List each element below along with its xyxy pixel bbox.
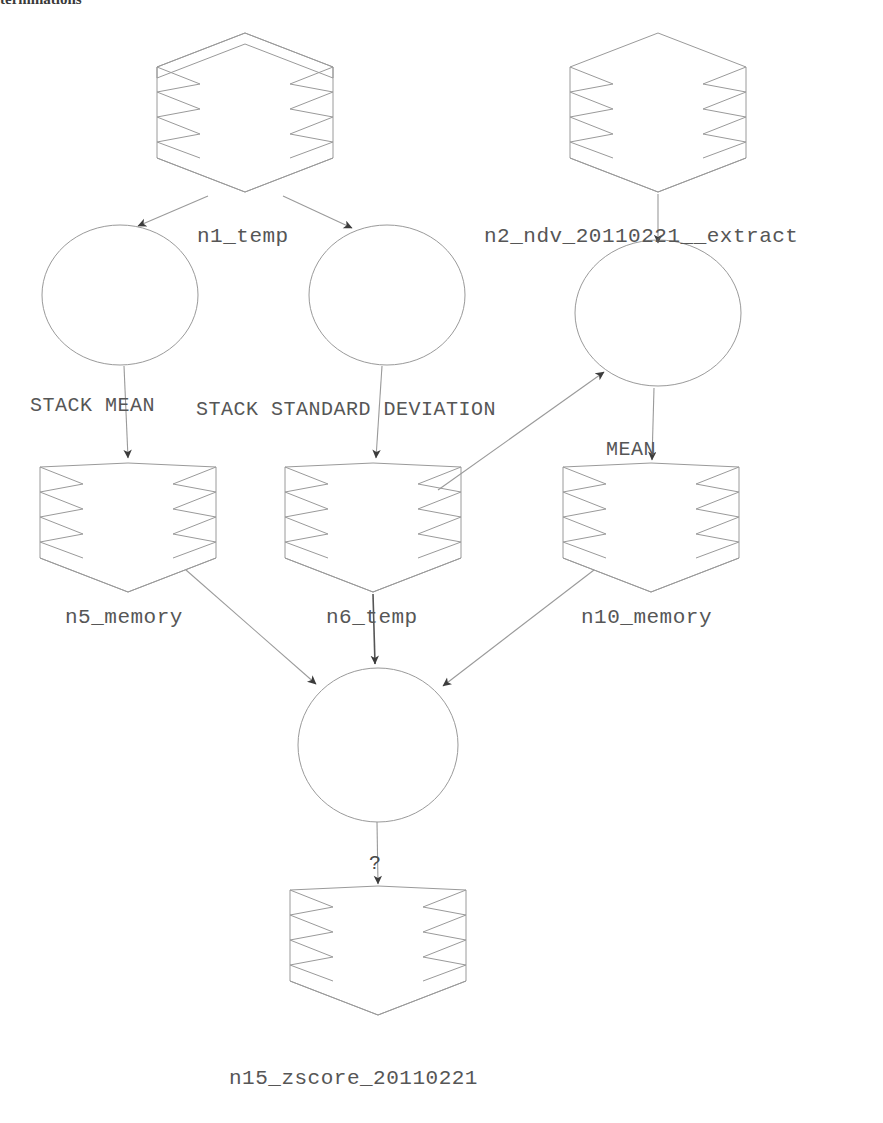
node-circle-c1[interactable]	[42, 225, 198, 365]
node-label-n15: n15_zscore_20110221	[229, 1068, 478, 1089]
edge-label-stack-standard-deviation: STACK STANDARD DEVIATION	[196, 400, 496, 420]
edge-n6-c3	[438, 372, 604, 490]
node-circle-c3[interactable]	[575, 240, 741, 386]
node-stack-n6[interactable]	[285, 463, 461, 592]
node-circle-c4[interactable]	[298, 668, 458, 822]
edge-label-stack-mean: STACK MEAN	[30, 396, 155, 416]
node-label-n1: n1_temp	[197, 226, 289, 247]
graph-svg	[0, 0, 883, 1123]
node-stack-n15[interactable]	[290, 886, 466, 1015]
edge-n1-c1	[138, 196, 208, 226]
edge-n10-c4	[443, 570, 594, 686]
node-circle-c2[interactable]	[309, 225, 465, 365]
node-stack-n2[interactable]	[570, 33, 746, 192]
edge-n5-c4	[186, 570, 316, 684]
diagram-canvas: terminations	[0, 0, 883, 1123]
node-stack-n10[interactable]	[563, 463, 739, 592]
edge-label-mean: MEAN	[606, 440, 656, 460]
node-label-n6: n6_temp	[326, 607, 418, 628]
edge-label-question-mark: ?	[369, 852, 381, 875]
node-stack-n1[interactable]	[157, 33, 333, 192]
edge-n6-c4	[373, 594, 375, 664]
edge-n1-c2	[283, 196, 352, 228]
node-label-n2: n2_ndv_20110221__extract	[484, 226, 798, 247]
node-label-n10: n10_memory	[581, 607, 712, 628]
node-label-n5: n5_memory	[65, 607, 183, 628]
